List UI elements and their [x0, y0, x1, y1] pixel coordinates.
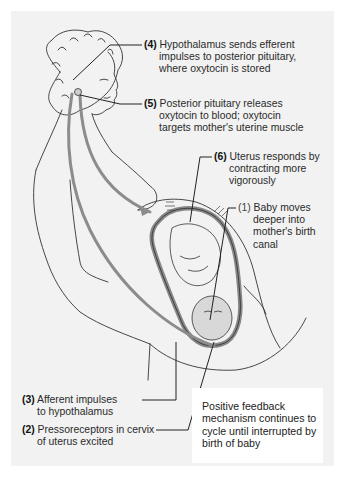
- label-line: vigorously: [214, 175, 320, 187]
- label-line: Uterus responds by: [230, 151, 320, 162]
- step-number: (1): [238, 202, 251, 213]
- label-line: Hypothalamus sends efferent: [160, 39, 295, 50]
- back-outline: [34, 170, 150, 344]
- label-line: Baby moves: [254, 202, 311, 213]
- step-number: (3): [22, 394, 35, 405]
- label-line: Posterior pituitary releases: [160, 98, 283, 109]
- feedback-note-text: Positive feedback mechanism continues to…: [202, 400, 316, 449]
- pituitary-gland: [75, 89, 82, 96]
- label-step-1: (1) Baby moves deeper into mother's birt…: [238, 202, 316, 251]
- label-line: targets mother's uterine muscle: [144, 122, 304, 134]
- label-line: Afferent impulses: [37, 394, 117, 405]
- label-line: contracting more: [214, 163, 320, 175]
- label-line: impulses to posterior pituitary,: [144, 51, 296, 63]
- label-step-5: (5) Posterior pituitary releases oxytoci…: [144, 98, 304, 135]
- note-line: mechanism continues to: [202, 412, 316, 424]
- step-number: (6): [214, 151, 227, 162]
- label-line: deeper into: [238, 214, 316, 226]
- note-line: birth of baby: [202, 437, 316, 449]
- label-step-3: (3) Afferent impulses to hypothalamus: [22, 394, 117, 418]
- label-step-2: (2) Pressoreceptors in cervix of uterus …: [22, 424, 154, 448]
- label-line: Pressoreceptors in cervix: [38, 424, 155, 435]
- note-line: cycle until interrupted by: [202, 425, 316, 437]
- step-number: (5): [144, 98, 157, 109]
- label-step-6: (6) Uterus responds by contracting more …: [214, 151, 320, 188]
- step-number: (2): [22, 424, 35, 435]
- feedback-note-box: Positive feedback mechanism continues to…: [192, 388, 323, 463]
- label-line: to hypothalamus: [22, 406, 117, 418]
- label-line: where oxytocin is stored: [144, 63, 296, 75]
- label-line: oxytocin to blood; oxytocin: [144, 110, 304, 122]
- label-step-4: (4) Hypothalamus sends efferent impulses…: [144, 39, 296, 76]
- label-line: mother's birth: [238, 226, 316, 238]
- note-line: Positive feedback: [202, 400, 316, 412]
- step-number: (4): [144, 39, 157, 50]
- label-line: of uterus excited: [22, 436, 154, 448]
- label-line: canal: [238, 239, 316, 251]
